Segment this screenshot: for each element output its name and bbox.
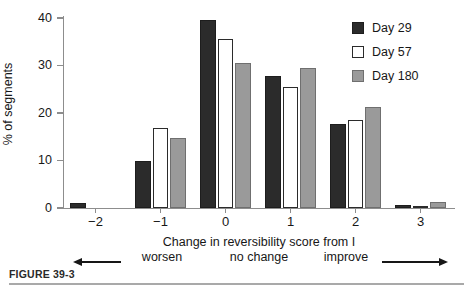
bar xyxy=(153,128,169,208)
bar xyxy=(430,202,446,208)
legend-item: Day 57 xyxy=(352,40,464,64)
legend-swatch-icon xyxy=(352,22,364,34)
x-tick-label: 0 xyxy=(222,214,229,229)
x-axis-title: Change in reversibility score from I xyxy=(163,235,355,249)
x-tick xyxy=(95,208,96,213)
y-tick-label: 30 xyxy=(38,58,52,72)
bar xyxy=(283,87,299,208)
bar xyxy=(265,76,281,208)
bar xyxy=(70,203,86,208)
x-tick-label: 3 xyxy=(417,214,424,229)
x-tick xyxy=(160,208,161,213)
figure-container: % of segments 010203040 −2−10123 Day 29D… xyxy=(0,0,471,291)
y-tick-label: 10 xyxy=(38,153,52,167)
y-tick-label: 0 xyxy=(45,201,52,215)
legend-swatch-icon xyxy=(352,46,364,58)
x-tick xyxy=(290,208,291,213)
bar xyxy=(395,205,411,208)
legend-label: Day 29 xyxy=(372,21,412,35)
bar xyxy=(365,107,381,208)
x-tick-label: 2 xyxy=(352,214,359,229)
caption-divider xyxy=(9,283,464,285)
y-tick-label: 20 xyxy=(38,106,52,120)
legend-item: Day 29 xyxy=(352,16,464,40)
bar xyxy=(218,39,234,208)
x-tick xyxy=(420,208,421,213)
x-tick xyxy=(225,208,226,213)
legend-label: Day 180 xyxy=(372,69,419,83)
x-tick xyxy=(355,208,356,213)
bar xyxy=(170,138,186,208)
x-tick-label: −2 xyxy=(88,214,103,229)
legend-label: Day 57 xyxy=(372,45,412,59)
bar xyxy=(348,120,364,208)
bar xyxy=(200,20,216,208)
legend-swatch-icon xyxy=(352,70,364,82)
figure-caption: FIGURE 39-3 xyxy=(9,268,75,280)
bar xyxy=(300,68,316,208)
x-tick-label: 1 xyxy=(287,214,294,229)
y-tick-label: 40 xyxy=(38,11,52,25)
bar xyxy=(135,161,151,209)
direction-annotations: worsen no change improve xyxy=(63,250,455,266)
annotation-worsen: worsen xyxy=(142,250,182,264)
annotation-no-change: no change xyxy=(230,250,288,264)
legend-item: Day 180 xyxy=(352,64,464,88)
bar xyxy=(330,124,346,208)
x-tick-label: −1 xyxy=(153,214,168,229)
bar xyxy=(235,63,251,208)
y-axis-title: % of segments xyxy=(1,63,15,146)
annotation-improve: improve xyxy=(324,250,368,264)
bar xyxy=(413,206,429,208)
chart-legend: Day 29Day 57Day 180 xyxy=(352,16,464,88)
